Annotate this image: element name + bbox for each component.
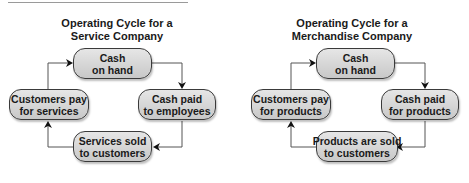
node-services-sold: Services sold to customers xyxy=(73,131,152,162)
merchandise-company-cycle: Operating Cycle for a Merchandise Compan… xyxy=(235,0,469,183)
node-customers-pay: Customers pay for services xyxy=(9,89,89,120)
node-products-sold: Products are sold to customers xyxy=(316,131,398,162)
service-company-cycle: Operating Cycle for a Service Company Ca… xyxy=(0,0,234,183)
node-customers-pay: Customers pay for products xyxy=(251,89,331,120)
node-cash-on-hand: Cash on hand xyxy=(73,48,152,79)
node-cash-paid: Cash paid to employees xyxy=(138,89,216,120)
node-cash-on-hand: Cash on hand xyxy=(316,48,395,79)
node-cash-paid: Cash paid for products xyxy=(381,89,459,120)
